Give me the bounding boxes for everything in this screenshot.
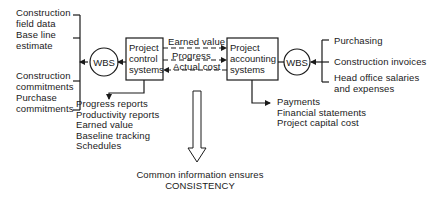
accounting-outputs-arrow (252, 80, 270, 103)
label-line: control (129, 53, 164, 64)
consistency-hollow-arrow (188, 91, 206, 162)
consistency-caption: Common information ensures CONSISTENCY (125, 169, 275, 191)
input-head-office: Head office salaries and expenses (334, 72, 419, 94)
input-purchasing: Purchasing (334, 35, 383, 46)
control-outputs-arrow (109, 80, 144, 99)
label-line: commitments (16, 103, 74, 114)
left-wbs-label: WBS (91, 57, 117, 68)
output-item: Payments (277, 97, 366, 108)
project-control-label: Project control systems (129, 42, 164, 75)
label-line: Construction (16, 7, 71, 18)
label-line: and expenses (334, 83, 419, 94)
output-item: Schedules (76, 141, 159, 152)
label-line: Purchase (16, 92, 74, 103)
progress-label: Progress (172, 50, 211, 61)
output-item: Progress reports (76, 99, 159, 110)
project-accounting-label: Project accounting systems (230, 42, 276, 75)
right-wbs-label: WBS (284, 57, 310, 68)
label-line: field data (16, 18, 71, 29)
caption-emphasis: CONSISTENCY (125, 180, 275, 191)
accounting-outputs-list: Payments Financial statements Project ca… (277, 97, 366, 129)
label-line: Head office salaries (334, 72, 419, 83)
left-input-bracket (73, 15, 80, 110)
caption-line: Common information ensures (125, 169, 275, 180)
input-construction-field-data: Construction field data Base line estima… (16, 7, 71, 51)
output-item: Project capital cost (277, 118, 366, 129)
input-construction-invoices: Construction invoices (334, 56, 426, 67)
label-line: Project (230, 42, 276, 53)
label-line: Project (129, 42, 164, 53)
control-outputs-list: Progress reports Productivity reports Ea… (76, 99, 159, 152)
label-line: commitments (16, 81, 74, 92)
label-line: systems (230, 64, 276, 75)
label-line: accounting (230, 53, 276, 64)
input-commitments: Construction commitments Purchase commit… (16, 70, 74, 114)
label-line: systems (129, 64, 164, 75)
right-input-bracket (322, 40, 329, 82)
earned-value-label: Earned value (168, 36, 225, 47)
label-line: Construction (16, 70, 74, 81)
actual-cost-label: Actual cost (173, 61, 221, 72)
label-line: estimate (16, 40, 71, 51)
label-line: Base line (16, 29, 71, 40)
output-item: Earned value (76, 120, 159, 131)
